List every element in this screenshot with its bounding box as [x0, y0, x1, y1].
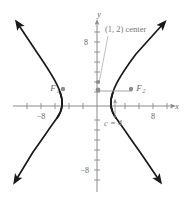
focus-left-label: F: [49, 83, 56, 93]
hyperbola-figure: x y −8 8 8 −8 (1, 2) center F 1 F 2 c = …: [0, 0, 190, 202]
y-tick-label-neg8: −8: [80, 166, 89, 175]
x-tick-label-8: 8: [151, 112, 155, 121]
focus-right-point: [129, 87, 133, 91]
graph-canvas: x y −8 8 8 −8 (1, 2) center F 1 F 2 c = …: [0, 0, 190, 202]
y-axis-label: y: [96, 10, 101, 19]
hyperbola-curves: [16, 24, 163, 180]
focus-right-subscript: 2: [143, 88, 146, 94]
x-axis-label: x: [174, 102, 179, 111]
center-leader-line: [99, 36, 108, 83]
center-annotation-label: (1, 2) center: [105, 24, 146, 34]
center-point: [96, 80, 100, 84]
center-point-lower: [96, 88, 101, 93]
c-measure-group: [97, 91, 132, 118]
right-branch-lower: [111, 92, 159, 180]
focus-right-label: F: [135, 83, 142, 93]
focus-left-subscript: 1: [57, 88, 60, 94]
y-tick-label-8: 8: [84, 38, 88, 47]
x-tick-label-neg8: −8: [37, 112, 46, 121]
c-value-label: c = 4: [104, 118, 123, 128]
right-branch-upper: [111, 24, 163, 118]
focus-left-point: [61, 87, 65, 91]
